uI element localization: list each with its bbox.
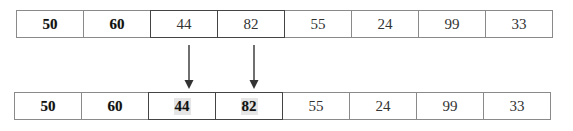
top-cell-3-highlighted: 82 <box>217 10 285 38</box>
cell-value: 82 <box>244 16 259 33</box>
bottom-cell-5: 24 <box>349 92 417 120</box>
cell-value: 99 <box>445 16 460 33</box>
top-cell-5: 24 <box>351 10 419 38</box>
bottom-cell-1: 60 <box>81 92 149 120</box>
cell-value: 55 <box>309 98 324 115</box>
arrow-down-icon <box>250 45 259 89</box>
bottom-cell-2-highlighted: 44 <box>148 92 216 120</box>
cell-value: 33 <box>510 98 525 115</box>
bottom-cell-6: 99 <box>416 92 484 120</box>
bottom-cell-7: 33 <box>483 92 551 120</box>
top-cell-2-highlighted: 44 <box>150 10 218 38</box>
bottom-cell-3-highlighted: 82 <box>215 92 283 120</box>
cell-value: 60 <box>108 98 123 115</box>
cell-value: 60 <box>110 16 125 33</box>
cell-value: 50 <box>41 98 56 115</box>
top-cell-4: 55 <box>284 10 352 38</box>
cell-value: 55 <box>311 16 326 33</box>
bottom-cell-4: 55 <box>282 92 350 120</box>
bottom-cell-0: 50 <box>14 92 82 120</box>
cell-value: 82 <box>241 98 258 115</box>
cell-value: 33 <box>512 16 527 33</box>
top-cell-7: 33 <box>485 10 553 38</box>
cell-value: 24 <box>378 16 393 33</box>
cell-value: 99 <box>443 98 458 115</box>
cell-value: 50 <box>43 16 58 33</box>
cell-value: 24 <box>376 98 391 115</box>
top-cell-1: 60 <box>83 10 151 38</box>
arrow-down-icon <box>185 45 194 89</box>
cell-value: 44 <box>174 98 191 115</box>
top-cell-0: 50 <box>16 10 84 38</box>
top-cell-6: 99 <box>418 10 486 38</box>
bottom-array: 50 60 44 82 55 24 99 33 <box>14 92 551 120</box>
cell-value: 44 <box>177 16 192 33</box>
top-array: 50 60 44 82 55 24 99 33 <box>16 10 553 38</box>
